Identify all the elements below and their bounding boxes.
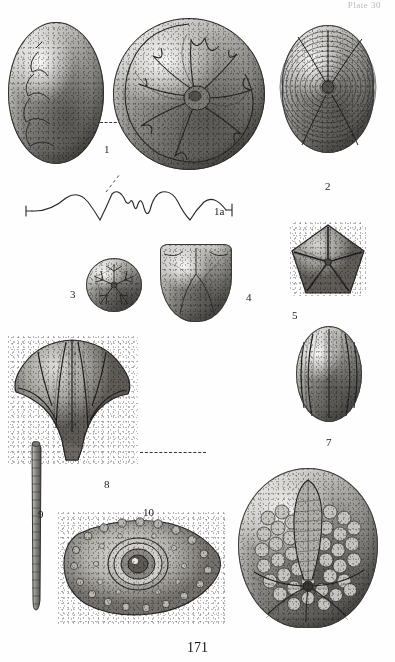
figure-tubercled-plate (58, 512, 228, 624)
shell-outline (8, 22, 104, 164)
figure-label-8: 9 (38, 508, 44, 520)
figure-label-9: 10 (143, 506, 154, 518)
figure-ammonite-lateral (113, 18, 265, 170)
shell-outline (113, 18, 265, 170)
figure-ribbed-ovoid (296, 326, 362, 422)
figure-concentric-shell (282, 25, 374, 153)
figure-label-5: 5 (292, 309, 298, 321)
test-outline (238, 468, 378, 628)
suture-curve (22, 186, 236, 226)
page-number: 171 (0, 640, 395, 656)
figure-label-6: 7 (326, 436, 332, 448)
figure-shield-calyx (160, 244, 232, 322)
figure-label-3: 3 (70, 288, 76, 300)
theca-outline (86, 258, 142, 312)
stipple-texture (290, 222, 366, 296)
figure-tessellated-echinoid (238, 468, 378, 628)
stipple-texture (8, 336, 138, 464)
figure-label-4: 4 (246, 291, 252, 303)
running-head: Plate 30 (0, 0, 395, 12)
figure-large-blastoid (8, 336, 138, 464)
figure-pentagonal-blastoid (290, 222, 366, 296)
figure-label-1: 1 (104, 143, 110, 155)
figure-suture-line-diagram (22, 186, 236, 226)
theca-outline (296, 326, 362, 422)
figure-label-2: 2 (325, 180, 331, 192)
fossil-plate: Plate 30 1 (0, 0, 395, 662)
leader-fig7-to-fig9 (140, 452, 206, 453)
column-segments (30, 440, 44, 612)
figure-star-disc (86, 258, 142, 312)
shell-outline (282, 25, 374, 153)
figure-label-1a: 1a (214, 205, 224, 217)
figure-crinoid-stem (30, 440, 44, 612)
figure-label-7: 8 (104, 478, 110, 490)
stipple-texture (58, 512, 228, 624)
figure-ammonite-ventral (8, 22, 104, 164)
